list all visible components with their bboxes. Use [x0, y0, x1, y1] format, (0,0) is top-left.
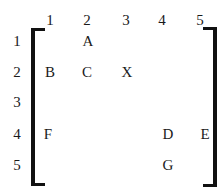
row-header-1: 1 — [13, 34, 21, 49]
col-header-3: 3 — [122, 13, 130, 28]
cell-B: B — [45, 65, 55, 80]
cell-G: G — [163, 158, 174, 173]
row-header-2: 2 — [13, 65, 21, 80]
row-header-4: 4 — [13, 127, 21, 142]
cell-A: A — [83, 34, 94, 49]
row-header-5: 5 — [13, 158, 21, 173]
col-header-1: 1 — [46, 13, 54, 28]
cell-C: C — [82, 65, 92, 80]
row-header-3: 3 — [13, 95, 21, 110]
cell-X: X — [122, 65, 133, 80]
left-bracket — [31, 28, 45, 186]
col-header-4: 4 — [158, 13, 166, 28]
col-header-2: 2 — [83, 13, 91, 28]
cell-F: F — [44, 127, 52, 142]
cell-E: E — [200, 127, 209, 142]
right-bracket — [203, 27, 217, 187]
col-header-5: 5 — [196, 13, 204, 28]
cell-D: D — [163, 127, 174, 142]
